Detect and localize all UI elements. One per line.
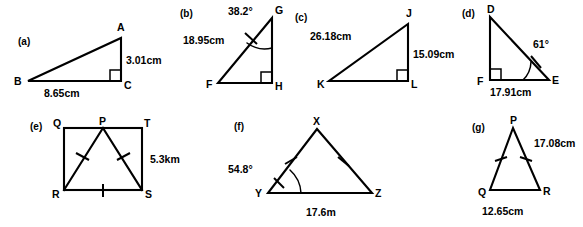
vertex-label-d-E: E — [552, 74, 559, 86]
figures-svg: (a) A B C 3.01cm 8.65cm (b) G F H 18.95c… — [0, 0, 583, 227]
figure-label-a: (a) — [18, 36, 30, 47]
vertex-label-e-R: R — [52, 188, 60, 200]
vertex-label-g-R: R — [543, 185, 551, 197]
vertex-label-c-J: J — [406, 7, 412, 19]
vertex-label-f-X: X — [313, 115, 320, 127]
figure-a — [28, 38, 121, 81]
measure-label-a-ac: 3.01cm — [126, 54, 162, 66]
vertex-label-a-C: C — [124, 79, 132, 91]
triangle-xyz-outline — [268, 129, 372, 193]
vertex-label-f-Y: Y — [255, 187, 262, 199]
angle-label-d-e: 61° — [533, 38, 549, 50]
angle-arc-y — [290, 170, 301, 193]
right-angle-marker-h — [261, 72, 272, 83]
triangle-fgh-outline — [218, 18, 272, 83]
vertex-label-a-B: B — [14, 75, 22, 87]
figure-label-b: (b) — [180, 8, 193, 19]
triangle-abc-outline — [28, 38, 121, 81]
triangle-pqr-outline — [490, 128, 540, 190]
measure-label-g-qr: 12.65cm — [482, 205, 523, 217]
triangle-prs-outline — [64, 128, 142, 190]
worksheet-canvas: (a) A B C 3.01cm 8.65cm (b) G F H 18.95c… — [0, 0, 583, 227]
vertex-label-b-G: G — [275, 4, 283, 16]
measure-label-b-fg: 18.95cm — [183, 34, 224, 46]
right-angle-marker-f — [490, 69, 501, 80]
figure-label-d: (d) — [462, 8, 475, 19]
angle-label-f-y: 54.8° — [228, 163, 253, 175]
vertex-label-d-F: F — [477, 75, 484, 87]
measure-label-a-bc: 8.65cm — [44, 87, 80, 99]
vertex-label-g-Q: Q — [478, 186, 486, 198]
angle-label-b-g: 38.2° — [228, 5, 253, 17]
figure-f — [268, 129, 372, 193]
measure-label-g-pr: 17.08cm — [534, 137, 575, 149]
vertex-label-f-Z: Z — [375, 187, 382, 199]
vertex-label-b-H: H — [275, 80, 283, 92]
measure-label-c-kj: 26.18cm — [310, 30, 351, 42]
vertex-label-b-F: F — [206, 78, 213, 90]
figure-b — [218, 18, 272, 83]
vertex-label-g-P: P — [510, 114, 517, 126]
figure-g — [490, 128, 540, 190]
figure-label-e: (e) — [30, 121, 42, 132]
vertex-label-a-A: A — [117, 21, 125, 33]
vertex-label-c-K: K — [317, 78, 325, 90]
vertex-label-e-P: P — [99, 115, 106, 127]
vertex-label-e-Q: Q — [53, 117, 61, 129]
measure-label-d-fe: 17.91cm — [490, 86, 531, 98]
right-angle-marker-l — [397, 70, 408, 81]
vertex-label-e-T: T — [144, 117, 151, 129]
measure-label-e-ts: 5.3km — [150, 153, 180, 165]
vertex-label-e-S: S — [145, 188, 152, 200]
figure-label-c: (c) — [295, 12, 307, 23]
right-angle-marker-c — [110, 70, 121, 81]
vertex-label-c-L: L — [411, 78, 418, 90]
figure-label-f: (f) — [234, 121, 244, 132]
angle-arc-e — [523, 62, 531, 80]
measure-label-f-yz: 17.6m — [306, 206, 336, 218]
vertex-label-d-D: D — [487, 3, 495, 15]
figure-e — [64, 128, 142, 197]
figure-label-g: (g) — [472, 122, 485, 133]
measure-label-c-jl: 15.09cm — [413, 48, 454, 60]
square-qtsr-outline — [64, 128, 142, 190]
